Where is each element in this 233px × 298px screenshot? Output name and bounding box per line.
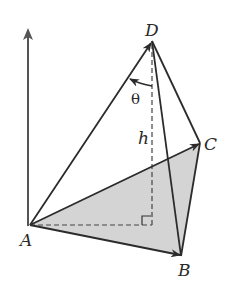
label-d: D [144,20,159,40]
label-b: B [177,260,191,280]
label-theta: θ [131,90,140,108]
angle-theta-arc [130,79,152,86]
label-c: C [204,134,217,154]
tetrahedron-diagram: D C A B h θ [0,0,233,298]
base-triangle-abc [30,143,200,256]
label-a: A [18,230,32,250]
label-h: h [138,128,149,148]
